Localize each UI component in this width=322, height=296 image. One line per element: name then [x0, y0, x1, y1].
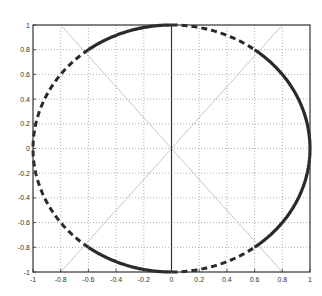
- x-tick-label: -0.4: [110, 276, 122, 283]
- x-tick-label: 0.8: [277, 276, 287, 283]
- y-tick-label: 0.6: [20, 71, 30, 78]
- y-tick-label: 0: [26, 145, 30, 152]
- x-tick-label: -1: [30, 276, 36, 283]
- circle-arc-dashed: [172, 25, 255, 50]
- y-tick-label: -0.4: [18, 194, 30, 201]
- y-tick-label: 0.8: [20, 46, 30, 53]
- y-tick-label: -1: [24, 269, 30, 276]
- x-tick-label: 0: [170, 276, 174, 283]
- x-tick-label: 0.6: [250, 276, 260, 283]
- x-tick-label: 0.2: [194, 276, 204, 283]
- y-tick-label: -0.6: [18, 219, 30, 226]
- y-tick-label: 1: [26, 22, 30, 29]
- x-tick-label: -0.8: [55, 276, 67, 283]
- x-tick-label: -0.6: [82, 276, 94, 283]
- y-tick-label: 0.4: [20, 96, 30, 103]
- x-tick-label: 0.4: [222, 276, 232, 283]
- x-tick-label: 1: [308, 276, 312, 283]
- circle-arc-solid: [88, 25, 171, 50]
- circle-arc-dashed: [172, 247, 255, 272]
- x-tick-label: -0.2: [138, 276, 150, 283]
- circle-arc-solid: [88, 247, 171, 272]
- unit-circle-chart: -1-0.8-0.6-0.4-0.200.20.40.60.81 -1-0.8-…: [0, 0, 322, 296]
- y-tick-label: -0.2: [18, 170, 30, 177]
- y-tick-label: 0.2: [20, 120, 30, 127]
- y-tick-label: -0.8: [18, 244, 30, 251]
